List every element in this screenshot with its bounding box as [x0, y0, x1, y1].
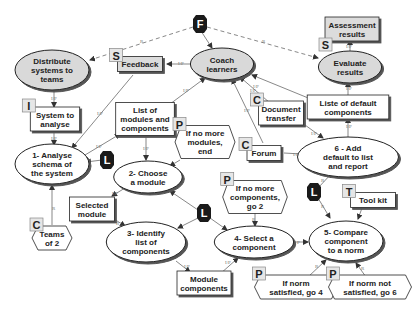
node-label: list of — [135, 238, 157, 247]
node-list-modules[interactable]: List ofmodules andcomponents — [116, 103, 175, 136]
node-label: List of — [133, 106, 157, 115]
node-label: components, — [230, 193, 280, 202]
svg-text:I/P: I/P — [51, 136, 57, 141]
node-selected-module[interactable]: Selectedmodule — [70, 197, 115, 221]
node-label: Evaluate — [334, 59, 367, 68]
node-L1[interactable]: L — [100, 151, 114, 169]
node-label: If norm not — [349, 279, 391, 288]
node-label: modules, — [187, 138, 222, 147]
node-label: 3- Identify — [127, 229, 165, 238]
svg-text:I/P: I/P — [143, 146, 149, 151]
tag-letter: P — [255, 268, 262, 280]
svg-text:R: R — [252, 217, 256, 222]
svg-text:P: P — [297, 240, 300, 245]
node-doc-transfer[interactable]: DocumenttransferC — [251, 93, 304, 125]
node-label: 5- Compare — [324, 228, 369, 237]
node-feedback[interactable]: FeedbackS — [110, 49, 163, 72]
node-label: Tool kit — [359, 196, 387, 205]
node-toolkit[interactable]: Tool kitT — [343, 185, 396, 208]
tag-letter: C — [253, 94, 261, 106]
node-add-default[interactable]: 6 - Adddefault to listand report — [298, 137, 399, 177]
node-label: module — [78, 210, 107, 219]
svg-text:I/P: I/P — [51, 96, 57, 101]
node-compare[interactable]: 5- Comparecomponentto a norm — [309, 221, 383, 261]
node-label: System to — [36, 111, 74, 120]
edge-L2-select — [210, 218, 227, 230]
node-label: component — [232, 243, 275, 252]
tag-letter: L — [104, 154, 111, 166]
node-label: end — [198, 147, 212, 156]
node-select-component[interactable]: 4- Select acomponent — [214, 226, 293, 258]
node-label: If no more — [186, 129, 225, 138]
edge-L2-identify — [178, 218, 198, 228]
node-label: Coach — [210, 56, 235, 65]
svg-text:I/P: I/P — [250, 88, 256, 93]
node-teams[interactable]: Teamsof 2C — [30, 218, 72, 250]
node-label: Teams — [40, 230, 65, 239]
node-identify[interactable]: 3- Identifylist ofcomponents — [106, 222, 185, 262]
nodes: FDistributesystems toteamsFeedbackSCoach… — [15, 15, 412, 299]
svg-text:R: R — [321, 178, 325, 183]
node-label: the system — [31, 169, 73, 178]
svg-text:I/P: I/P — [184, 264, 190, 269]
tag-letter: P — [176, 119, 183, 131]
svg-text:I/P: I/P — [346, 86, 352, 91]
svg-text:I/P: I/P — [97, 111, 103, 116]
node-L3[interactable]: L — [307, 183, 321, 201]
svg-text:I/P: I/P — [183, 88, 189, 93]
node-label: teams — [40, 75, 64, 84]
node-analyse[interactable]: 1- Analyseschema ofthe system — [15, 144, 89, 184]
edge-F-coach — [201, 31, 212, 48]
tag-letter: S — [112, 50, 119, 62]
svg-text:R: R — [361, 266, 365, 271]
node-label: If no more — [236, 184, 275, 193]
svg-text:I/P: I/P — [311, 131, 317, 136]
node-label: 1- Analyse — [32, 151, 72, 160]
node-label: a module — [130, 178, 166, 187]
tag-letter: I — [27, 100, 30, 112]
node-coach[interactable]: Coachlearners — [190, 48, 253, 80]
node-label: results — [339, 30, 366, 39]
node-label: Forum — [252, 149, 277, 158]
svg-text:R: R — [315, 264, 319, 269]
node-label: Selected — [76, 201, 109, 210]
node-if-no-modules[interactable]: If no moremodules,endP — [173, 118, 235, 159]
node-F[interactable]: F — [193, 15, 207, 33]
diagram-canvas: RRI/P I/PI/PI/P I/PI/PI/P I/PI/PI/P I/PI… — [0, 0, 417, 314]
node-system-to-analyse[interactable]: System toanalyseI — [22, 99, 79, 131]
svg-text:R: R — [262, 39, 266, 44]
node-label: default to list — [323, 153, 373, 162]
node-choose[interactable]: 2- Choosea module — [114, 161, 183, 193]
node-distribute[interactable]: Distributesystems toteams — [15, 50, 89, 90]
node-label: analyse — [40, 120, 70, 129]
svg-text:I/P: I/P — [178, 61, 184, 66]
svg-text:R: R — [116, 221, 120, 226]
node-label: satisfied, go 6 — [343, 288, 397, 297]
node-label: Document — [261, 105, 300, 114]
node-label: modules and — [120, 115, 169, 124]
tag-letter: L — [201, 207, 208, 219]
node-label: 2- Choose — [129, 169, 168, 178]
node-liste-default[interactable]: Liste of defaultcomponents — [307, 95, 389, 119]
node-module-components[interactable]: Modulecomponents — [177, 271, 231, 295]
node-label: components — [180, 284, 228, 293]
node-if-norm-satisfied[interactable]: If normsatisfied, go 4P — [253, 267, 338, 299]
tag-letter: C — [33, 219, 41, 231]
node-label: to a norm — [328, 246, 364, 255]
svg-text:I/P: I/P — [244, 108, 250, 113]
node-if-no-components[interactable]: If no morecomponents,go 2P — [221, 173, 288, 214]
node-label: components — [324, 108, 372, 117]
node-L2[interactable]: L — [197, 204, 211, 222]
node-if-norm-not-satisfied[interactable]: If norm notsatisfied, go 6P — [327, 267, 412, 299]
node-forum[interactable]: ForumC — [239, 138, 281, 161]
svg-text:I/P: I/P — [96, 144, 102, 149]
edge-toolkit-compare — [358, 208, 362, 219]
node-label: If norm — [282, 279, 309, 288]
tag-letter: P — [329, 268, 336, 280]
tag-letter: P — [224, 174, 231, 186]
node-label: Assessment — [328, 21, 375, 30]
node-evaluate[interactable]: Evaluateresults — [318, 51, 381, 83]
node-label: components — [122, 247, 170, 256]
node-label: 6 - Add — [335, 144, 362, 153]
node-label: results — [337, 68, 364, 77]
